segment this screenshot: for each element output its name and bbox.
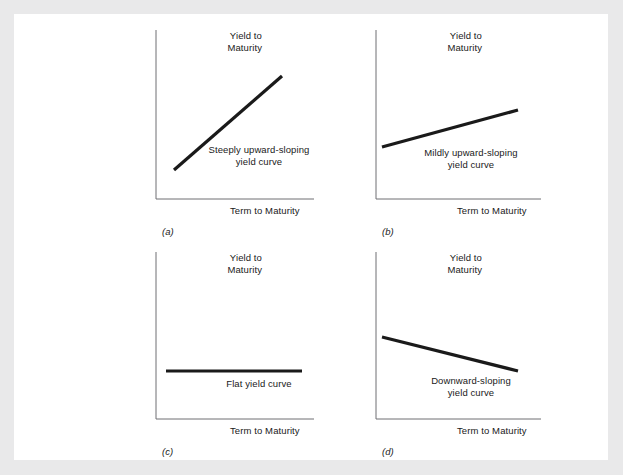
y-axis-label-c: Yield to Maturity <box>90 252 262 275</box>
y-axis-label-a: Yield to Maturity <box>90 30 262 53</box>
curve-annotation-c: Flat yield curve <box>186 378 332 390</box>
curve-annotation-a: Steeply upward-sloping yield curve <box>186 144 332 168</box>
figure-root: Yield to Maturity Steeply upward-sloping… <box>0 0 623 475</box>
y-axis-label-d: Yield to Maturity <box>310 252 482 275</box>
yield-curve-line-d <box>382 337 518 371</box>
panel-caption-c: (c) <box>162 446 173 457</box>
x-axis-label-b: Term to Maturity <box>457 205 527 217</box>
axis-lines-a <box>156 30 314 199</box>
chart-panel-a: Yield to Maturity Steeply upward-sloping… <box>142 30 332 240</box>
axis-lines-c <box>156 252 314 419</box>
chart-panel-d: Yield to Maturity Downward-sloping yield… <box>362 252 552 462</box>
chart-b-plot <box>362 30 552 210</box>
chart-c-plot <box>142 252 332 432</box>
y-axis-label-b: Yield to Maturity <box>310 30 482 53</box>
yield-curve-line-b <box>382 110 518 147</box>
panel-caption-b: (b) <box>382 226 394 237</box>
x-axis-label-c: Term to Maturity <box>230 425 300 437</box>
x-axis-label-d: Term to Maturity <box>457 425 527 437</box>
curve-annotation-d: Downward-sloping yield curve <box>398 375 544 399</box>
chart-a-plot <box>142 30 332 210</box>
figure-white-panel: Yield to Maturity Steeply upward-sloping… <box>14 14 608 460</box>
panel-caption-a: (a) <box>162 226 174 237</box>
x-axis-label-a: Term to Maturity <box>230 205 300 217</box>
panel-caption-d: (d) <box>382 446 394 457</box>
axis-lines-b <box>376 30 541 199</box>
chart-panel-c: Yield to Maturity Flat yield curve Term … <box>142 252 332 462</box>
chart-d-plot <box>362 252 552 432</box>
chart-panel-b: Yield to Maturity Mildly upward-sloping … <box>362 30 552 240</box>
curve-annotation-b: Mildly upward-sloping yield curve <box>398 147 544 171</box>
